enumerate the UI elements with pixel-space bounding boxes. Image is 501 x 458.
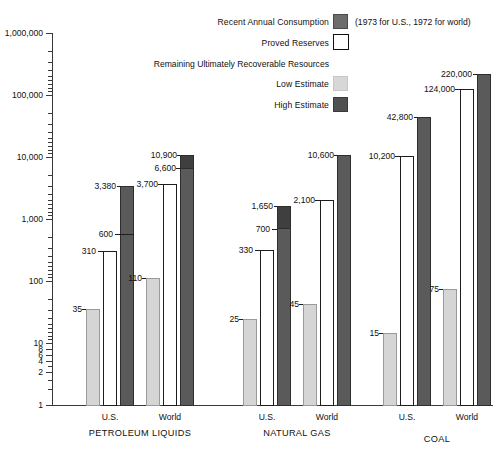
legend-row-proved: Proved Reserves xyxy=(215,35,501,51)
value-label-coal-us-low: 15 xyxy=(345,328,379,338)
y-tick-100: 100 xyxy=(0,276,43,286)
bar-pet-us-divider-600 xyxy=(120,234,134,235)
bar-pet-world-high-cap xyxy=(180,155,194,170)
y-tick-1: 1 xyxy=(0,400,43,410)
bar-coal-world-proved xyxy=(460,89,474,406)
y-axis-line xyxy=(52,33,53,406)
value-label-pet-world-high-top: 10,900 xyxy=(133,150,177,160)
value-label-pet-world-low: 110 xyxy=(108,273,142,283)
value-label-pet-us-low: 35 xyxy=(48,304,82,314)
value-label-gas-us-low: 25 xyxy=(205,314,239,324)
bar-gas-us-high-cap xyxy=(277,206,291,229)
bar-coal-world-high-estimate xyxy=(477,74,491,406)
value-label-gas-us-proved: 330 xyxy=(219,245,253,255)
bar-pet-world-proved xyxy=(163,184,177,406)
category-label-petroleum-liquids: PETROLEUM LIQUIDS xyxy=(50,428,230,438)
value-label-coal-us-proved: 10,200 xyxy=(350,151,395,161)
low-estimate-swatch-icon xyxy=(333,76,348,91)
bar-coal-us-proved xyxy=(400,156,414,406)
value-label-coal-us-high-top: 42,800 xyxy=(368,112,413,122)
value-label-coal-world-high-top: 220,000 xyxy=(425,69,472,79)
bar-coal-us-high-estimate xyxy=(417,117,431,407)
value-label-pet-world-high-mid: 6,600 xyxy=(136,163,176,173)
legend-label-high-estimate: High Estimate xyxy=(274,97,329,113)
legend-note-years: (1973 for U.S., 1972 for world) xyxy=(355,14,471,30)
value-label-pet-world-proved: 3,700 xyxy=(118,179,158,189)
bar-pet-world-consumption xyxy=(146,278,160,406)
value-label-pet-us-high-top: 3,380 xyxy=(76,181,116,191)
bar-gas-world-consumption xyxy=(303,304,317,407)
bar-coal-us-consumption xyxy=(383,333,397,406)
value-label-coal-world-proved: 124,000 xyxy=(408,84,455,94)
bar-gas-us-proved xyxy=(260,250,274,406)
high-estimate-swatch-icon xyxy=(333,97,348,112)
bar-coal-world-consumption xyxy=(443,289,457,406)
bar-pet-world-high-estimate xyxy=(180,155,194,407)
bar-gas-world-high-estimate xyxy=(337,155,351,406)
value-label-coal-world-low: 75 xyxy=(405,284,439,294)
group-label-petroleum-world: World xyxy=(140,412,200,422)
chart-legend: Recent Annual Consumption (1973 for U.S.… xyxy=(215,14,501,118)
y-tick-1000000: 1,000,000 xyxy=(0,28,43,38)
legend-label-consumption: Recent Annual Consumption xyxy=(218,14,329,30)
value-label-gas-us-high-mid: 700 xyxy=(236,224,270,234)
proved-reserves-swatch-icon xyxy=(333,34,349,50)
value-label-gas-world-low: 45 xyxy=(265,299,299,309)
value-label-gas-us-high-top: 1,650 xyxy=(232,201,273,211)
value-label-pet-us-high-mid: 600 xyxy=(79,229,113,239)
y-tick-2: 2 xyxy=(0,367,43,377)
category-label-coal: COAL xyxy=(347,434,501,444)
y-tick-100000: 100,000 xyxy=(0,90,43,100)
value-label-gas-world-high-top: 10,600 xyxy=(290,150,334,160)
bar-gas-us-consumption xyxy=(243,319,257,406)
legend-label-remaining-resources: Remaining Ultimately Recoverable Resourc… xyxy=(154,56,329,72)
y-tick-4: 4 xyxy=(0,356,43,366)
group-label-coal-world: World xyxy=(437,412,497,422)
legend-label-low-estimate: Low Estimate xyxy=(276,76,329,92)
y-tick-1000: 1,000 xyxy=(0,214,43,224)
consumption-swatch-icon xyxy=(333,14,348,29)
legend-row-high-estimate: High Estimate xyxy=(215,97,501,113)
legend-row-consumption: Recent Annual Consumption (1973 for U.S.… xyxy=(215,14,501,30)
bar-gas-world-proved xyxy=(320,200,334,406)
value-label-pet-us-proved: 310 xyxy=(62,246,96,256)
group-label-coal-us: U.S. xyxy=(377,412,437,422)
energy-resources-bar-chart: Recent Annual Consumption (1973 for U.S.… xyxy=(0,0,501,458)
bar-pet-us-consumption xyxy=(86,309,100,406)
value-label-gas-world-proved: 2,100 xyxy=(275,195,315,205)
group-label-petroleum-us: U.S. xyxy=(80,412,140,422)
legend-label-proved-reserves: Proved Reserves xyxy=(262,35,329,51)
group-label-gas-world: World xyxy=(297,412,357,422)
group-label-gas-us: U.S. xyxy=(237,412,297,422)
y-tick-10000: 10,000 xyxy=(0,152,43,162)
bar-pet-us-high-estimate xyxy=(120,186,134,406)
